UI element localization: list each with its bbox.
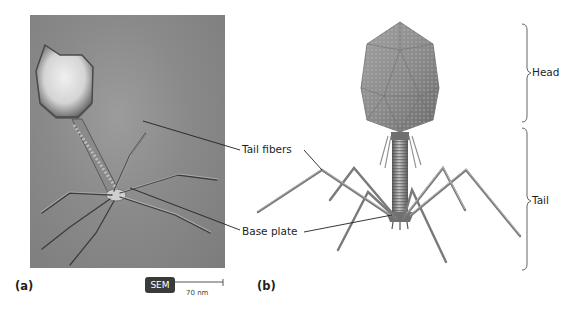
scale-bar-label: 70 nm [186, 289, 208, 297]
tail-fibers-label: Tail fibers [242, 143, 292, 155]
tail-bracket-label: Tail [532, 194, 549, 206]
panel-b-letter: (b) [257, 279, 276, 293]
head-bracket-label: Head [532, 66, 559, 78]
base-plate-label: Base plate [242, 225, 298, 237]
sem-badge: SEM [145, 277, 175, 293]
panel-a-letter: (a) [15, 279, 33, 293]
annotation-lines [0, 0, 570, 313]
